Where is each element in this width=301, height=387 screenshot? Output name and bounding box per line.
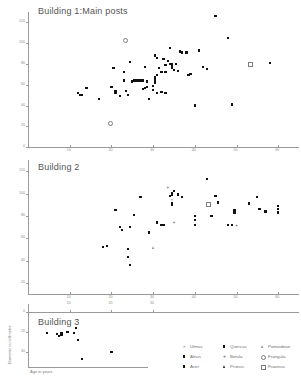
data-point <box>156 92 158 94</box>
data-point <box>60 332 62 334</box>
data-point <box>102 246 104 248</box>
data-point <box>85 87 87 89</box>
data-point <box>152 89 154 91</box>
data-point <box>181 51 183 53</box>
filled-square-marker-icon <box>183 365 185 367</box>
data-point <box>110 351 112 353</box>
legend-item-pomoideae[interactable]: Pomoideae <box>261 342 301 352</box>
y-tick-label: 120 <box>14 169 25 173</box>
data-point <box>227 224 229 226</box>
x-tick-label: 30 <box>150 302 154 306</box>
y-tick <box>26 352 29 353</box>
y-tick <box>26 194 29 195</box>
y-tick <box>26 147 29 148</box>
data-point <box>164 71 166 73</box>
x-tick <box>70 310 71 313</box>
panel-1-title: Building 1:Main posts <box>38 6 128 16</box>
data-point <box>217 201 219 203</box>
data-point <box>206 68 208 70</box>
data-point <box>119 226 121 228</box>
legend-item-betula[interactable]: +Betula <box>223 352 263 362</box>
data-point <box>146 86 148 88</box>
data-point <box>277 205 279 207</box>
data-point <box>123 71 125 73</box>
data-point <box>73 332 75 334</box>
data-point <box>173 190 175 192</box>
data-point <box>171 193 173 195</box>
data-point <box>175 63 177 65</box>
data-point <box>214 195 216 197</box>
legend-item-alnus[interactable]: Alnus <box>183 352 223 362</box>
legend-label: Betula <box>230 352 242 362</box>
legend-label: Frangula <box>268 352 285 362</box>
data-point <box>202 66 204 68</box>
panel-2-y-axis <box>28 160 29 294</box>
data-point <box>125 90 127 92</box>
data-point <box>148 231 150 233</box>
y-tick <box>26 85 29 86</box>
legend-item-quercus[interactable]: Quercus <box>223 342 263 352</box>
data-point <box>214 15 216 17</box>
data-point <box>75 327 77 329</box>
data-point <box>194 215 196 217</box>
data-point <box>231 224 233 226</box>
y-tick-label: 40 <box>14 104 25 108</box>
data-point <box>167 60 169 62</box>
y-tick-label: 40 <box>14 350 25 354</box>
panel-building-2: Building 2 10203040506020406080100120 ++… <box>0 152 301 298</box>
legend-item-prunus[interactable]: Prunus <box>223 362 263 372</box>
data-point <box>154 76 156 78</box>
data-point <box>210 215 212 217</box>
data-point <box>81 358 83 360</box>
data-point <box>156 57 158 59</box>
panel-building-1: Building 1:Main posts 102030405060020406… <box>0 0 301 152</box>
data-point <box>121 229 123 231</box>
data-point <box>160 91 162 93</box>
data-point <box>144 66 146 68</box>
data-point <box>152 246 154 249</box>
data-point <box>66 331 68 333</box>
panel-1-y-axis <box>28 12 29 148</box>
data-point <box>258 208 260 210</box>
data-point <box>108 121 113 126</box>
data-point <box>194 104 196 106</box>
legend-item-frangula[interactable]: Frangula <box>261 352 301 362</box>
data-point <box>162 224 164 226</box>
data-point <box>269 62 271 64</box>
legend-label: Alnus <box>190 352 201 362</box>
y-tick-label: 40 <box>14 259 25 263</box>
data-point <box>164 92 166 94</box>
y-tick <box>26 64 29 65</box>
open-circle-marker-icon <box>261 355 266 360</box>
legend-item-fraxinus[interactable]: Fraxinus <box>261 362 301 372</box>
data-point <box>146 80 148 82</box>
data-point <box>185 51 187 53</box>
y-tick-label: 20 <box>14 281 25 285</box>
x-tick <box>153 310 154 313</box>
data-point <box>173 69 175 71</box>
y-tick <box>26 106 29 107</box>
data-point <box>77 339 79 341</box>
data-point <box>81 94 83 96</box>
y-tick <box>26 312 29 313</box>
y-tick-label: 20 <box>14 124 25 128</box>
data-point <box>119 95 121 97</box>
data-point <box>169 47 171 49</box>
legend-label: Ulmus <box>190 342 202 352</box>
legend-item-ulmus[interactable]: ×Ulmus <box>183 342 223 352</box>
panel-3-x-axis <box>28 312 299 313</box>
open-square-marker-icon <box>261 365 266 370</box>
data-point <box>264 210 266 212</box>
data-point <box>98 98 100 100</box>
data-point <box>198 49 200 51</box>
data-point <box>110 86 112 88</box>
panel-2-title: Building 2 <box>38 162 80 172</box>
y-tick-label: 80 <box>14 214 25 218</box>
data-point <box>123 79 125 81</box>
y-tick <box>26 332 29 333</box>
data-point <box>152 85 154 87</box>
data-point <box>256 196 258 198</box>
data-point <box>129 264 131 266</box>
legend-item-acer[interactable]: Acer <box>183 362 223 372</box>
panel-3-title: Building 3 <box>38 317 80 327</box>
